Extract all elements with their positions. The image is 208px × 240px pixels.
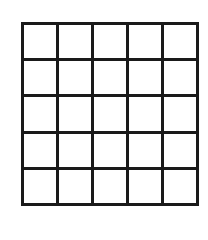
grid-cell-r1-c2 — [59, 25, 91, 58]
grid-cell-r1-c5 — [164, 25, 196, 58]
grid-cell-r3-c5 — [164, 97, 196, 130]
grid-cell-r2-c4 — [129, 61, 161, 94]
grid-cell-r4-c1 — [24, 134, 56, 167]
grid-cell-r1-c1 — [24, 25, 56, 58]
grid-cell-r4-c5 — [164, 134, 196, 167]
grid-cell-r3-c4 — [129, 97, 161, 130]
grid-cell-r4-c3 — [94, 134, 126, 167]
grid-cell-r2-c1 — [24, 61, 56, 94]
grid-cell-r5-c3 — [94, 170, 126, 203]
grid-cell-r5-c5 — [164, 170, 196, 203]
grid-cell-r5-c1 — [24, 170, 56, 203]
grid-cell-r1-c4 — [129, 25, 161, 58]
grid-cell-r5-c2 — [59, 170, 91, 203]
grid-5x5 — [21, 22, 199, 206]
grid-cell-r4-c2 — [59, 134, 91, 167]
grid-cell-r4-c4 — [129, 134, 161, 167]
grid-cell-r1-c3 — [94, 25, 126, 58]
grid-cell-r2-c3 — [94, 61, 126, 94]
grid-cell-r3-c1 — [24, 97, 56, 130]
grid-cell-r3-c2 — [59, 97, 91, 130]
grid-cell-r3-c3 — [94, 97, 126, 130]
grid-cell-r2-c2 — [59, 61, 91, 94]
grid-cell-r2-c5 — [164, 61, 196, 94]
grid-cell-r5-c4 — [129, 170, 161, 203]
